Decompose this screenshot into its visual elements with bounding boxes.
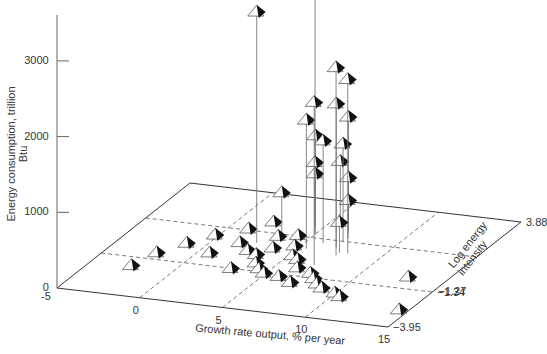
z-tick-label: −3.95: [393, 321, 421, 333]
data-point-marker: [206, 228, 224, 241]
energy-axis: [57, 15, 69, 288]
data-point-marker: [330, 215, 348, 228]
data-point-marker: [297, 113, 315, 126]
data-point-marker: [399, 270, 417, 283]
grid-line-x: [305, 212, 438, 317]
data-point-marker: [265, 215, 283, 228]
data-point-marker: [305, 95, 323, 108]
data-point-marker: [269, 229, 287, 242]
z-tick-label: 3.88: [526, 216, 547, 228]
data-point-marker: [327, 61, 345, 74]
data-point-marker: [339, 110, 357, 123]
data-point-marker: [178, 236, 196, 249]
data-point-marker: [264, 241, 282, 254]
data-point-marker: [339, 171, 357, 184]
x-tick-label: 15: [378, 333, 390, 345]
z-tick-label: −1.27: [439, 285, 467, 297]
x-tick-label: -5: [41, 290, 51, 302]
data-points: [122, 0, 417, 316]
data-point-marker: [306, 156, 324, 169]
data-point-marker: [331, 154, 349, 167]
data-point-marker: [270, 269, 288, 282]
grid-line-x: [140, 193, 273, 298]
data-point-marker: [273, 186, 291, 199]
data-point-marker: [390, 303, 408, 316]
y-axis-title: Energy consumption, trillion Btu: [5, 79, 29, 229]
data-point-marker: [339, 73, 357, 86]
data-point-marker: [240, 222, 258, 235]
floor-left-edge: [57, 183, 190, 288]
x-tick-label: 0: [133, 304, 139, 316]
data-point-marker: [248, 5, 266, 18]
data-point-marker: [222, 261, 240, 274]
data-point-marker: [122, 259, 140, 272]
data-point-marker: [148, 246, 166, 259]
data-point-marker: [334, 137, 352, 150]
y-tick-label: 3000: [24, 54, 48, 66]
